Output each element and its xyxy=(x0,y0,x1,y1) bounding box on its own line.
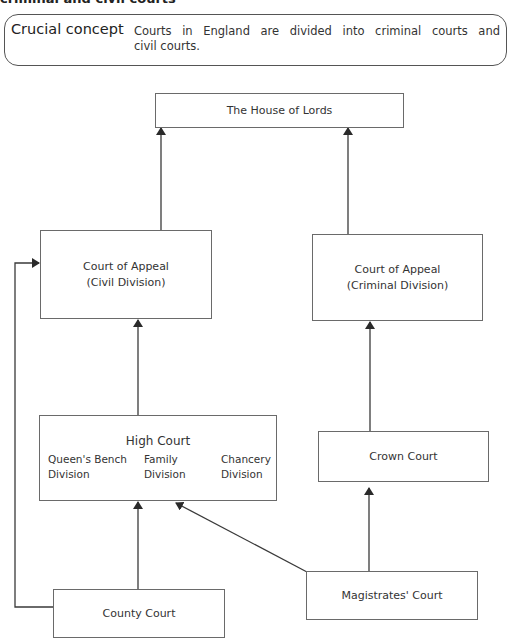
civil-appeal-line1: Court of Appeal xyxy=(41,259,211,275)
court-of-appeal-civil-box: Court of Appeal (Civil Division) xyxy=(40,230,212,319)
county-court-label: County Court xyxy=(54,606,224,622)
queens-bench-line1: Queen's Bench xyxy=(48,452,127,467)
family-line1: Family xyxy=(144,452,186,467)
magistrates-court-box: Magistrates' Court xyxy=(306,571,478,620)
criminal-appeal-line2: (Criminal Division) xyxy=(313,278,482,294)
queens-bench-line2: Division xyxy=(48,467,127,482)
arrow-magistrates-to-high-court xyxy=(176,503,307,572)
high-court-title: High Court xyxy=(40,434,276,448)
criminal-appeal-line1: Court of Appeal xyxy=(313,262,482,278)
house-of-lords-label: The House of Lords xyxy=(156,103,403,119)
high-court-box: High Court Queen's Bench Division Family… xyxy=(39,415,277,501)
court-of-appeal-criminal-box: Court of Appeal (Criminal Division) xyxy=(312,234,483,321)
chancery-line1: Chancery xyxy=(221,452,271,467)
house-of-lords-box: The House of Lords xyxy=(155,93,404,128)
family-division: Family Division xyxy=(144,452,186,482)
civil-appeal-line2: (Civil Division) xyxy=(41,275,211,291)
magistrates-court-label: Magistrates' Court xyxy=(307,588,477,604)
crown-court-label: Crown Court xyxy=(319,449,488,465)
county-court-box: County Court xyxy=(53,589,225,638)
chancery-line2: Division xyxy=(221,467,271,482)
crown-court-box: Crown Court xyxy=(318,431,489,482)
chancery-division: Chancery Division xyxy=(221,452,271,482)
queens-bench-division: Queen's Bench Division xyxy=(48,452,127,482)
family-line2: Division xyxy=(144,467,186,482)
